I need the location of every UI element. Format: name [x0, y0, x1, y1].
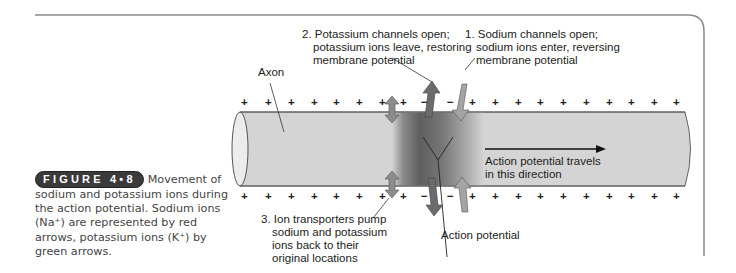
- caption-line: green arrows.: [35, 245, 235, 259]
- charge: −: [447, 96, 454, 109]
- charge: +: [628, 190, 635, 203]
- figure-stage: + + + + + + + + − − + + + + + + + + + + …: [0, 0, 736, 273]
- charge: +: [606, 190, 613, 203]
- charge: +: [356, 96, 363, 109]
- direction-line: Action potential travels: [485, 155, 601, 168]
- caption-line: (Na⁺) are represented by red: [35, 216, 235, 230]
- charge: +: [241, 190, 248, 203]
- charge: +: [288, 190, 295, 203]
- charge: +: [537, 96, 544, 109]
- step2-line: membrane potential: [313, 54, 415, 67]
- charge: +: [400, 96, 407, 109]
- charge: +: [311, 96, 318, 109]
- step3-line: ions back to their: [272, 239, 359, 252]
- step1-line: sodium ions enter, reversing: [476, 41, 620, 54]
- charge: +: [651, 190, 658, 203]
- step1-line: 1. Sodium channels open;: [465, 28, 598, 41]
- charge: +: [492, 190, 499, 203]
- charge: +: [469, 96, 476, 109]
- charge: −: [421, 96, 428, 109]
- action-potential-label: Action potential: [441, 229, 520, 242]
- direction-line: in this direction: [485, 168, 562, 181]
- charge: +: [379, 190, 386, 203]
- caption-line: the action potential. Sodium ions: [35, 202, 235, 216]
- figure-caption: FIGURE 4•8Movement of sodium and potassi…: [35, 171, 235, 259]
- charge: +: [400, 190, 407, 203]
- step3-line: original locations: [272, 252, 358, 265]
- charge: +: [673, 190, 680, 203]
- charge: +: [265, 190, 272, 203]
- axon-cylinder: [232, 112, 691, 186]
- charge: −: [421, 190, 428, 203]
- charge: +: [288, 96, 295, 109]
- charge: +: [515, 96, 522, 109]
- step3-line: 3. Ion transporters pump: [261, 213, 386, 226]
- charge: +: [492, 96, 499, 109]
- step1-line: membrane potential: [476, 54, 578, 67]
- step2-line: potassium ions leave, restoring: [313, 41, 472, 54]
- charge: +: [241, 96, 248, 109]
- charge: +: [379, 96, 386, 109]
- charge: +: [673, 96, 680, 109]
- charge: +: [265, 96, 272, 109]
- charge: +: [651, 96, 658, 109]
- charge: +: [606, 96, 613, 109]
- charge: +: [333, 96, 340, 109]
- charge: +: [583, 190, 590, 203]
- caption-line: arrows, potassium ions (K⁺) by: [35, 231, 235, 245]
- caption-line: Movement of: [148, 173, 222, 186]
- charge: +: [515, 190, 522, 203]
- figure-badge: FIGURE 4•8: [35, 171, 144, 188]
- charge: +: [469, 190, 476, 203]
- charge: +: [560, 190, 567, 203]
- charge: −: [447, 190, 454, 203]
- caption-line: sodium and potassium ions during: [35, 188, 235, 202]
- charge: +: [628, 96, 635, 109]
- charge: +: [583, 96, 590, 109]
- charge: +: [537, 190, 544, 203]
- step3-line: sodium and potassium: [272, 226, 387, 239]
- charge: +: [560, 96, 567, 109]
- charge: +: [356, 190, 363, 203]
- charge: +: [311, 190, 318, 203]
- axon-label: Axon: [258, 66, 284, 79]
- step2-line: 2. Potassium channels open;: [302, 28, 450, 41]
- charge: +: [333, 190, 340, 203]
